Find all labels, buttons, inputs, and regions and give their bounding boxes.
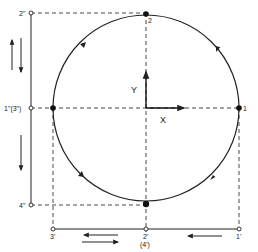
point-4pp-label: 4": [19, 202, 25, 209]
orbit-diagram: Y X 2 1 2" 1"(3") 4" 3' 2' (4') 1': [0, 0, 258, 252]
point-1p-label: 1': [236, 233, 241, 240]
point-2-label: 2: [148, 17, 152, 24]
point-1-label: 1: [243, 105, 247, 112]
orbit-direction-arrows: [78, 42, 221, 180]
x-axis-label: X: [160, 116, 166, 125]
vertical-motion-arrows: [12, 38, 21, 170]
point-4p-label: (4'): [140, 241, 150, 248]
projection-lines: [31, 13, 239, 232]
point-2pp-label: 2": [19, 10, 25, 17]
horizontal-motion-arrows: [82, 235, 222, 242]
point-2p-label: 2': [143, 233, 148, 240]
point-1pp-label: 1"(3"): [4, 105, 21, 112]
point-3p-label: 3': [50, 233, 55, 240]
arrow-icon: [80, 42, 86, 48]
center-axes: [146, 72, 184, 108]
y-axis-label: Y: [131, 86, 137, 95]
diagram-graphics: [0, 0, 258, 252]
